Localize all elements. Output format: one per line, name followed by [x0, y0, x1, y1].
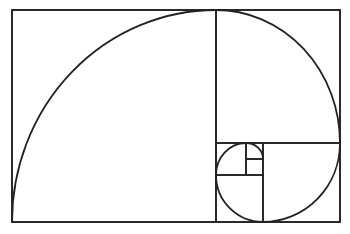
spiral-arc-4: [216, 175, 263, 222]
square-7: [246, 159, 263, 175]
square-2: [216, 10, 340, 143]
spiral-arc-6: [246, 143, 263, 159]
square-1: [12, 10, 216, 222]
spiral-arc-5: [216, 143, 246, 175]
spiral-curve: [12, 10, 340, 222]
division-lines: [12, 10, 340, 222]
spiral-arc-2: [216, 10, 340, 143]
golden-spiral-diagram: Golden spiral in golden rectangle: [0, 0, 350, 234]
spiral-arc-1: [12, 10, 216, 222]
spiral-arc-3: [263, 143, 340, 222]
diagram-canvas: [0, 0, 350, 234]
outer-rectangle: [12, 10, 340, 222]
square-3: [263, 143, 340, 222]
